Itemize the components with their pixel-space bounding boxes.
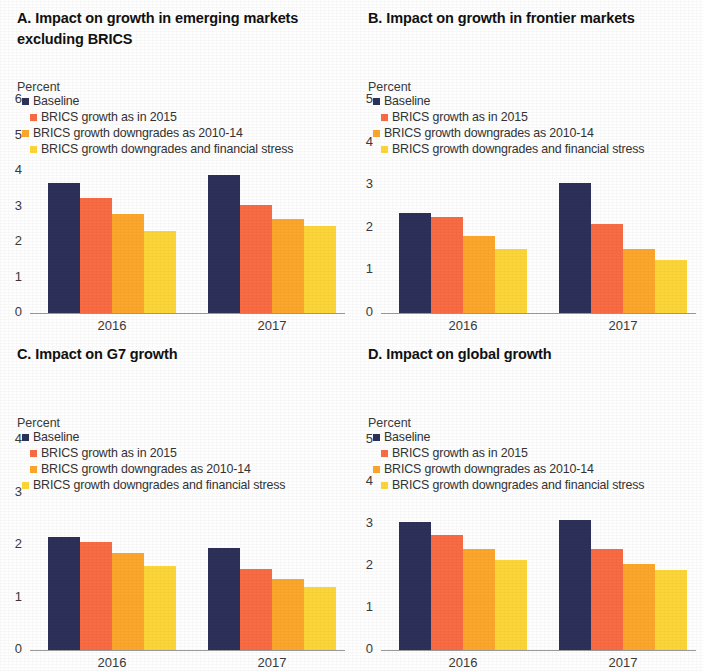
- panel-c-plot: 4321020162017: [0, 336, 352, 671]
- bar: [112, 214, 144, 313]
- bar: [559, 183, 591, 313]
- y-axis-tick-label: 3: [357, 515, 373, 530]
- y-axis-tick-label: 0: [6, 304, 22, 319]
- x-axis-line: [381, 650, 696, 651]
- x-axis-group-label: 2017: [559, 655, 687, 670]
- x-axis-group-label: 2016: [48, 318, 176, 333]
- panel-a-plot: 654321020162017: [0, 0, 352, 336]
- bar: [463, 549, 495, 650]
- bar: [495, 560, 527, 650]
- panel-d: D. Impact on global growth Percent Basel…: [351, 336, 703, 671]
- panel-b-plot: 54321020162017: [351, 0, 703, 336]
- y-axis-tick-label: 6: [6, 91, 22, 106]
- bar: [304, 587, 336, 650]
- bar: [655, 260, 687, 313]
- y-axis-tick-label: 4: [357, 473, 373, 488]
- bar: [144, 231, 176, 313]
- panel-a: A. Impact on growth in emerging markets …: [0, 0, 352, 336]
- y-axis-tick-label: 2: [357, 219, 373, 234]
- panel-d-plot: 54321020162017: [351, 336, 703, 671]
- y-axis-tick-label: 2: [357, 557, 373, 572]
- bar: [48, 183, 80, 313]
- bar: [144, 566, 176, 650]
- bar: [240, 569, 272, 650]
- y-axis-tick-label: 1: [357, 599, 373, 614]
- bar: [463, 236, 495, 313]
- panel-c: C. Impact on G7 growth Percent Baseline …: [0, 336, 352, 671]
- y-axis-tick-label: 3: [6, 484, 22, 499]
- y-axis-tick-label: 2: [6, 233, 22, 248]
- bar: [80, 542, 112, 650]
- x-axis-group-label: 2017: [208, 655, 336, 670]
- x-axis-line: [381, 313, 696, 314]
- y-axis-tick-label: 5: [357, 91, 373, 106]
- bar: [272, 219, 304, 313]
- y-axis-tick-label: 0: [357, 304, 373, 319]
- bar: [304, 226, 336, 313]
- y-axis-tick-label: 3: [357, 176, 373, 191]
- y-axis-tick-label: 4: [357, 134, 373, 149]
- panel-b: B. Impact on growth in frontier markets …: [351, 0, 703, 336]
- x-axis-line: [30, 650, 345, 651]
- bar: [623, 249, 655, 313]
- x-axis-line: [30, 313, 345, 314]
- x-axis-group-label: 2017: [208, 318, 336, 333]
- x-axis-group-label: 2016: [399, 655, 527, 670]
- y-axis-tick-label: 1: [6, 589, 22, 604]
- x-axis-group-label: 2016: [48, 655, 176, 670]
- bar: [591, 224, 623, 313]
- bar: [48, 537, 80, 650]
- bar: [623, 564, 655, 650]
- y-axis-tick-label: 3: [6, 198, 22, 213]
- y-axis-tick-label: 5: [357, 431, 373, 446]
- bar: [399, 213, 431, 313]
- y-axis-tick-label: 4: [6, 431, 22, 446]
- bar: [559, 520, 591, 650]
- x-axis-group-label: 2016: [399, 318, 527, 333]
- y-axis-tick-label: 0: [6, 641, 22, 656]
- y-axis-tick-label: 0: [357, 641, 373, 656]
- x-axis-group-label: 2017: [559, 318, 687, 333]
- bar: [80, 198, 112, 313]
- bar: [272, 579, 304, 650]
- bar: [240, 205, 272, 313]
- bar: [112, 553, 144, 650]
- bar: [399, 522, 431, 650]
- y-axis-tick-label: 1: [6, 269, 22, 284]
- y-axis-tick-label: 2: [6, 536, 22, 551]
- bar: [431, 535, 463, 651]
- bar: [591, 549, 623, 650]
- bar: [655, 570, 687, 650]
- bar: [208, 548, 240, 650]
- bar: [495, 249, 527, 313]
- bar: [431, 217, 463, 313]
- y-axis-tick-label: 4: [6, 162, 22, 177]
- y-axis-tick-label: 5: [6, 127, 22, 142]
- bar: [208, 175, 240, 313]
- y-axis-tick-label: 1: [357, 261, 373, 276]
